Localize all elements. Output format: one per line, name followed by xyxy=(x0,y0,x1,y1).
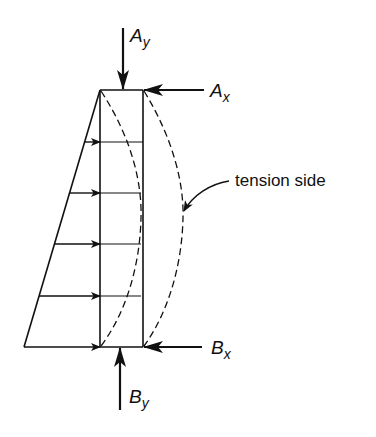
reaction-Bx: Bx xyxy=(144,337,232,362)
reaction-By: By xyxy=(120,348,150,411)
column-member xyxy=(100,90,143,347)
label-By: By xyxy=(129,386,150,411)
outer-deflection-curve xyxy=(144,91,183,346)
column-free-body-diagram: Ay Ax Bx By tension side xyxy=(0,0,376,437)
tension-side-label: tension side xyxy=(235,171,326,190)
deflected-shape xyxy=(101,91,183,346)
inner-deflection-curve xyxy=(101,91,141,346)
label-Ay: Ay xyxy=(129,25,151,50)
tension-side-annotation: tension side xyxy=(184,171,326,211)
triangular-load xyxy=(24,90,143,347)
label-Bx: Bx xyxy=(211,337,232,362)
leader-arrow-icon xyxy=(184,181,229,211)
load-triangle-hypotenuse xyxy=(24,90,100,347)
reaction-Ay: Ay xyxy=(123,25,151,89)
reaction-Ax: Ax xyxy=(144,80,231,105)
label-Ax: Ax xyxy=(209,80,231,105)
